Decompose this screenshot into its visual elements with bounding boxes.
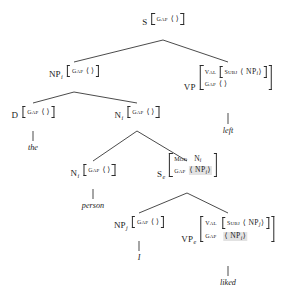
feature-value: Ni [194,155,201,164]
feature-name: GAP [205,79,216,89]
bracket-right [112,164,116,176]
feature-value: ⟨ ⟩ [171,15,179,24]
branch-se-to-np [139,193,187,213]
avm-d: GAP ⟨ ⟩ [22,106,54,118]
terminal-person: person [82,201,104,210]
terminal-i: I [138,253,141,262]
feature-value: ⟨ ⟩ [102,166,110,175]
feature-name: GAP [132,107,143,117]
feature-gap: GAP ⟨ ⟩ [205,79,267,89]
tree-branch-lines [0,0,290,303]
node-s-e: Se MOD Ni GAP ⟨ NPi⟩ [157,152,217,180]
node-d: D GAP ⟨ ⟩ [11,105,54,122]
node-label-vp-e: VPe [181,235,196,244]
bracket-right [263,66,267,78]
terminal-liked: liked [220,278,236,287]
feature-name: GAP [205,231,216,241]
avm-n-i-upper: GAP ⟨ ⟩ [127,106,159,118]
avm-s-e: MOD Ni GAP ⟨ NPi⟩ [169,153,217,177]
node-np-i-top: NPi GAP ⟨ ⟩ [49,64,99,81]
feature-gap: GAP ⟨ ⟩ [88,165,110,175]
feature-value: ⟨ NPi⟩ [188,166,212,175]
nested-avm-val: SUBJ ⟨ NPj⟩ [222,217,270,229]
syntax-tree-diagram: S GAP ⟨ ⟩ NPi GAP ⟨ ⟩ [0,0,290,303]
node-label-n-i-upper: Ni [114,111,123,120]
branch-np-to-n [74,92,137,103]
feature-value: ⟨ NPj⟩ [243,219,265,228]
feature-value: ⟨ ⟩ [86,67,94,76]
node-n-i-upper: Ni GAP ⟨ ⟩ [114,105,159,122]
bracket-right [269,65,273,90]
feature-subj: SUBJ ⟨ NPj⟩ [227,218,264,228]
feature-gap: GAP ⟨ ⟩ [132,107,154,117]
node-vp-top: VP VAL SUBJ ⟨ NPi⟩ [184,64,272,94]
node-label-np-j: NPj [114,221,128,230]
avm-np-i-top: GAP ⟨ ⟩ [67,65,99,77]
bracket-right [180,13,184,25]
feature-value: ⟨ ⟩ [151,218,159,227]
feature-name: GAP [88,165,99,175]
branch-np-to-d [33,92,74,103]
feature-name: MOD [174,154,187,164]
avm-n-i-lower: GAP ⟨ ⟩ [83,164,115,176]
avm-vp-e: VAL SUBJ ⟨ NPj⟩ GAP ⟨ NPi⟩ [200,216,275,242]
feature-val: VAL SUBJ ⟨ NPj⟩ [205,217,269,229]
node-np-j: NPj GAP ⟨ ⟩ [114,215,164,232]
branch-n-to-n [93,131,137,161]
feature-name: SUBJ [227,218,240,228]
bracket-right [51,106,55,118]
feature-subj: SUBJ ⟨ NPi⟩ [225,67,262,77]
bracket-right [214,153,218,177]
avm-s-root: GAP ⟨ ⟩ [151,13,183,25]
feature-name: GAP [27,107,38,117]
bracket-right [271,216,275,242]
nested-avm-val: SUBJ ⟨ NPi⟩ [219,66,267,78]
feature-gap: GAP ⟨ ⟩ [27,107,49,117]
node-label-vp-top: VP [184,83,196,92]
node-n-i-lower: Ni GAP ⟨ ⟩ [70,163,115,180]
node-label-s-e: Se [157,170,165,179]
branch-s-to-vp [163,40,228,62]
feature-gap: GAP ⟨ ⟩ [157,14,179,24]
feature-name: GAP [72,66,83,76]
bracket-right [156,106,160,118]
terminal-the: the [28,143,38,152]
feature-name: VAL [205,67,216,77]
feature-gap: GAP ⟨ NPi⟩ [205,231,269,241]
feature-name: VAL [205,218,216,228]
node-s-root: S GAP ⟨ ⟩ [142,12,184,29]
feature-gap: GAP ⟨ ⟩ [137,217,159,227]
bracket-right [96,65,100,77]
node-vp-e: VPe VAL SUBJ ⟨ NPj⟩ [181,215,274,246]
avm-vp-top: VAL SUBJ ⟨ NPi⟩ GAP ⟨ ⟩ [200,65,273,90]
feature-mod: MOD Ni [174,154,212,164]
feature-gap: GAP ⟨ ⟩ [72,66,94,76]
feature-value: ⟨ ⟩ [42,108,50,117]
feature-name: GAP [174,166,185,176]
feature-value: ⟨ NPi⟩ [240,68,262,77]
node-label-n-i-lower: Ni [70,169,79,178]
feature-name: SUBJ [225,67,238,77]
feature-val: VAL SUBJ ⟨ NPi⟩ [205,66,267,78]
branch-s-to-np [74,40,163,62]
node-label-np-i-top: NPi [49,70,63,79]
feature-name: GAP [157,14,168,24]
feature-value: ⟨ ⟩ [146,108,154,117]
feature-value: ⟨ NPi⟩ [224,232,248,241]
terminal-left: left [223,126,233,135]
node-label-s-root: S [142,18,147,27]
node-label-d: D [11,111,18,120]
branch-se-to-vpe [187,193,228,213]
feature-gap: GAP ⟨ NPi⟩ [174,166,212,176]
avm-np-j: GAP ⟨ ⟩ [132,216,164,228]
bracket-right [161,216,165,228]
feature-name: GAP [137,217,148,227]
bracket-right [266,217,270,229]
feature-value: ⟨ ⟩ [219,80,227,89]
